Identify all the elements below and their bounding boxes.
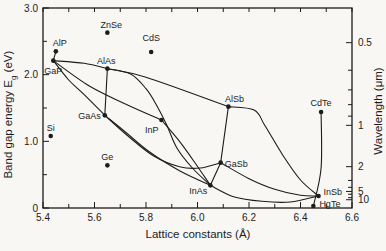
- data-point-Ge: [105, 163, 110, 168]
- material-label-Ge: Ge: [101, 152, 113, 162]
- left-y-axis-title: Band gap energy Eg (eV): [2, 35, 17, 195]
- material-label-GaAs: GaAs: [78, 111, 101, 121]
- data-point-InSb: [316, 194, 321, 199]
- data-point-GaSb: [218, 160, 223, 165]
- curve-AlAs-GaAs: [105, 69, 108, 116]
- material-label-HgTe: HgTe: [319, 199, 340, 209]
- curve-InAs-InSb: [210, 185, 318, 202]
- material-label-CdTe: CdTe: [311, 98, 332, 108]
- curve-AlSb-GaSb: [221, 107, 229, 163]
- right-y-tick-label: 2: [358, 161, 364, 172]
- material-label-InP: InP: [145, 125, 159, 135]
- left-y-title-post: (eV): [2, 51, 14, 76]
- material-label-AlSb: AlSb: [225, 94, 244, 104]
- left-y-title-sub: g: [9, 76, 18, 80]
- data-point-InP: [159, 118, 164, 123]
- left-y-tick-label: 2.0: [24, 69, 38, 80]
- data-point-Si: [48, 134, 53, 139]
- data-point-CdS: [149, 50, 154, 55]
- data-point-GaAs: [103, 113, 108, 118]
- data-point-ZnSe: [105, 30, 110, 35]
- data-point-CdTe: [319, 110, 324, 115]
- right-y-tick-label: 0.5: [358, 37, 372, 48]
- left-y-tick-label: 3.0: [24, 3, 38, 14]
- x-axis-tick-label: 6.4: [294, 212, 308, 223]
- material-label-Si: Si: [47, 123, 55, 133]
- curve-InAs-GaSb: [210, 163, 220, 186]
- left-y-tick-label: 0: [32, 203, 38, 214]
- material-label-AlAs: AlAs: [97, 56, 116, 66]
- x-axis-tick-label: 6.0: [191, 212, 205, 223]
- bandgap-vs-lattice-chart: 5.45.65.86.06.26.46.601.02.03.00.512510S…: [0, 0, 386, 251]
- left-y-tick-label: 1.0: [24, 136, 38, 147]
- data-point-GaP: [51, 58, 56, 63]
- plot-frame: [43, 8, 352, 208]
- material-label-GaP: GaP: [44, 66, 62, 76]
- x-axis-tick-label: 6.2: [242, 212, 256, 223]
- x-axis-tick-label: 6.6: [345, 212, 359, 223]
- x-axis-tick-label: 5.4: [36, 212, 50, 223]
- data-point-AlAs: [105, 66, 110, 71]
- x-axis-title-text: Lattice constants (Å): [146, 228, 251, 240]
- material-label-InSb: InSb: [324, 187, 343, 197]
- left-y-title-pre: Band gap energy E: [2, 80, 14, 178]
- data-point-InAs: [208, 183, 213, 188]
- right-y-tick-label: 10: [358, 194, 370, 205]
- curve-AlSb-InSb: [228, 107, 318, 196]
- curve-GaAs-GaSb: [105, 115, 221, 168]
- data-point-AlSb: [226, 104, 231, 109]
- data-point-HgTe: [311, 204, 316, 209]
- material-label-AlP: AlP: [53, 38, 67, 48]
- curve-AlAs-AlSb: [107, 69, 228, 107]
- material-label-ZnSe: ZnSe: [101, 20, 123, 30]
- material-label-CdS: CdS: [142, 33, 160, 43]
- right-y-tick-label: 1: [358, 120, 364, 131]
- curve-CdTe-HgTe: [313, 112, 321, 206]
- band-gap-figure: 5.45.65.86.06.26.46.601.02.03.00.512510S…: [0, 0, 386, 251]
- material-label-GaSb: GaSb: [225, 159, 248, 169]
- material-label-InAs: InAs: [189, 186, 208, 196]
- x-axis-tick-label: 5.8: [139, 212, 153, 223]
- x-axis-title: Lattice constants (Å): [43, 228, 353, 240]
- data-point-AlP: [54, 49, 59, 54]
- x-axis-tick-label: 5.6: [88, 212, 102, 223]
- right-y-axis-title: Wavelength (μm): [372, 31, 384, 191]
